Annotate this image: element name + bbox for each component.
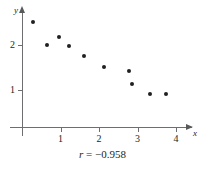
correlation-value: −0.958 bbox=[95, 148, 126, 160]
data-point bbox=[164, 92, 168, 96]
scatter-plot-figure: y x 1234 12 r = −0.958 bbox=[0, 0, 205, 169]
y-tick-label: 2 bbox=[2, 40, 15, 50]
x-tick-label: 1 bbox=[54, 134, 68, 144]
x-tick-mark bbox=[99, 128, 100, 132]
data-point bbox=[102, 65, 106, 69]
correlation-caption: r = −0.958 bbox=[0, 148, 205, 160]
data-point bbox=[45, 43, 49, 47]
data-point bbox=[31, 20, 35, 24]
y-tick-mark bbox=[18, 90, 22, 91]
data-point bbox=[82, 54, 86, 58]
x-axis-line bbox=[10, 127, 192, 128]
y-tick-label: 1 bbox=[2, 85, 15, 95]
x-tick-label: 4 bbox=[169, 134, 183, 144]
y-axis-arrow-icon bbox=[19, 6, 25, 13]
y-axis-line bbox=[22, 12, 23, 136]
x-tick-mark bbox=[138, 128, 139, 132]
data-point bbox=[57, 35, 61, 39]
x-axis-arrow-icon bbox=[186, 124, 193, 130]
x-tick-mark bbox=[61, 128, 62, 132]
correlation-equals: = bbox=[83, 148, 95, 160]
data-point bbox=[130, 82, 134, 86]
x-axis-title: x bbox=[193, 129, 197, 138]
x-tick-label: 3 bbox=[131, 134, 145, 144]
y-axis-title: y bbox=[14, 6, 18, 15]
data-point bbox=[67, 44, 71, 48]
y-tick-mark bbox=[18, 45, 22, 46]
plot-area: y x 1234 12 bbox=[0, 0, 205, 169]
data-point bbox=[127, 69, 131, 73]
x-tick-label: 2 bbox=[92, 134, 106, 144]
x-tick-mark bbox=[176, 128, 177, 132]
data-point bbox=[148, 92, 152, 96]
